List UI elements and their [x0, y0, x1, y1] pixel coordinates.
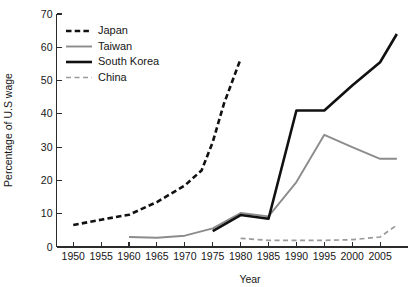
x-tick-label: 1955 — [89, 250, 113, 262]
x-axis-ticks: 1950195519601965197019751980198519901995… — [62, 242, 392, 262]
x-tick-label: 1975 — [201, 250, 225, 262]
x-tick-label: 2005 — [368, 250, 392, 262]
x-tick-label: 1950 — [62, 250, 86, 262]
x-tick-label: 1960 — [117, 250, 141, 262]
x-tick-label: 2000 — [341, 250, 365, 262]
y-tick-label: 20 — [41, 174, 53, 186]
x-tick-label: 1995 — [313, 250, 337, 262]
x-tick-label: 1970 — [173, 250, 197, 262]
y-tick-label: 70 — [41, 8, 53, 20]
x-tick-label: 1980 — [229, 250, 253, 262]
line-chart-canvas: 010203040506070 195019551960196519701975… — [0, 0, 420, 287]
y-tick-label: 60 — [41, 41, 53, 53]
chart-figure: 010203040506070 195019551960196519701975… — [0, 0, 420, 287]
y-tick-label: 40 — [41, 107, 53, 119]
y-tick-label: 10 — [41, 207, 53, 219]
legend-label-china: China — [98, 71, 128, 83]
x-tick-label: 1965 — [145, 250, 169, 262]
x-axis-group: 1950195519601965197019751980198519901995… — [57, 242, 409, 262]
legend-label-japan: Japan — [98, 24, 128, 36]
chart-legend: JapanTaiwanSouth KoreaChina — [66, 24, 160, 83]
legend-label-taiwan: Taiwan — [98, 40, 132, 52]
y-tick-label: 50 — [41, 74, 53, 86]
y-axis-title: Percentage of U.S wage — [2, 73, 14, 187]
x-axis-title: Year — [239, 273, 261, 285]
series-line-china — [241, 225, 397, 240]
series-line-taiwan — [129, 135, 397, 238]
legend-label-south-korea: South Korea — [98, 55, 160, 67]
series-line-japan — [73, 59, 240, 225]
y-tick-label: 30 — [41, 141, 53, 153]
y-tick-label: 0 — [47, 241, 53, 253]
x-tick-label: 1990 — [285, 250, 309, 262]
y-axis-ticks: 010203040506070 — [41, 8, 62, 253]
series-line-south-korea — [213, 34, 397, 231]
y-axis-group: 010203040506070 — [41, 8, 62, 253]
x-tick-label: 1985 — [257, 250, 281, 262]
